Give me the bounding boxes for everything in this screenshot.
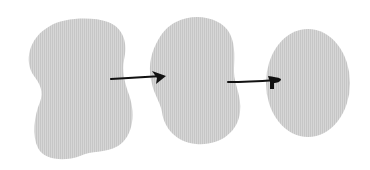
diagram-canvas [0,0,370,170]
blob-shape-3 [266,29,350,137]
blob-shape-1 [29,19,133,160]
flow-diagram [0,0,370,170]
blob-shape-2 [150,17,240,144]
